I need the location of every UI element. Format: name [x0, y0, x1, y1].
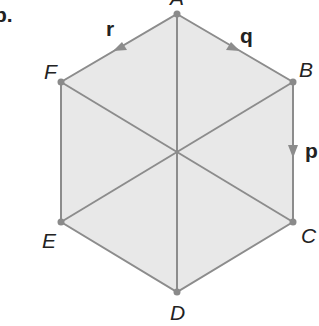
vertex-F-point: [58, 79, 65, 86]
vertex-B-point: [290, 79, 297, 86]
vertex-D-label: D: [170, 301, 185, 324]
vertex-F-label: F: [44, 60, 58, 83]
vector-p-label: p: [305, 139, 318, 162]
vertex-A-point: [174, 11, 181, 18]
vector-q-label: q: [240, 24, 253, 47]
vertex-E-label: E: [42, 229, 57, 252]
vertex-E-point: [58, 219, 65, 226]
vector-r-label: r: [106, 17, 114, 40]
vertex-B-label: B: [299, 58, 313, 81]
hexagon-diagram: b. A B C D E F r q p: [0, 0, 319, 326]
vertex-D-point: [174, 289, 181, 296]
part-label: b.: [0, 3, 13, 26]
vertex-A-label: A: [168, 0, 184, 9]
vertex-C-label: C: [301, 224, 317, 247]
vertex-C-point: [290, 219, 297, 226]
